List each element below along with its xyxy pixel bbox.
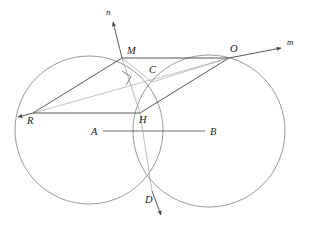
point-labels-group: M O C R H A B D [26,43,238,205]
geometry-figure: M O C R H A B D n m [0,0,312,228]
geometry-canvas: M O C R H A B D n m [0,0,312,228]
ray-labels-group: n m [106,7,294,47]
label-point-B: B [210,126,217,137]
label-point-H: H [138,114,148,125]
label-point-M: M [126,45,137,56]
label-ray-n: n [106,7,111,17]
label-point-O: O [230,43,238,54]
right-angle-mark [122,71,131,85]
rays-group [18,22,281,215]
label-point-A: A [90,126,98,137]
label-ray-m: m [287,37,294,47]
ray-n [113,22,122,58]
label-point-R: R [26,115,34,126]
label-point-D: D [144,194,153,205]
ray-at-D [152,191,161,215]
segment-RM [33,58,122,113]
segment-MC [122,58,152,82]
label-point-C: C [149,64,157,75]
line-n-through-M-H-D [122,58,152,191]
segment-MH [122,58,140,113]
